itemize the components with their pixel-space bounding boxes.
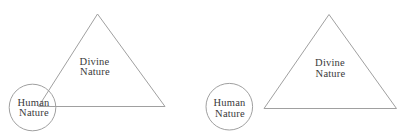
circle-label-line2: Nature xyxy=(215,108,245,119)
dual-nature-diagram: Divine Nature Human Nature Divine Nature… xyxy=(0,0,401,136)
diagram-separate: Divine Nature Human Nature xyxy=(206,15,397,131)
circle-label-line1: Human xyxy=(18,97,50,108)
triangle-label-line2: Nature xyxy=(316,68,346,79)
triangle-label-line1: Divine xyxy=(315,57,345,68)
diagram-overlapping: Divine Nature Human Nature xyxy=(9,14,165,131)
circle-label-line1: Human xyxy=(214,97,246,108)
diagram-canvas: Divine Nature Human Nature Divine Nature… xyxy=(0,0,401,136)
circle-label-line2: Nature xyxy=(19,107,49,118)
triangle-label-line1: Divine xyxy=(80,56,110,67)
triangle-label-line2: Nature xyxy=(80,66,110,77)
